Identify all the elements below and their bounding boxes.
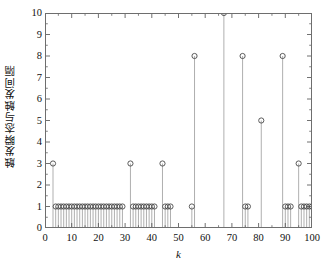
y-axis-tick-labels: 012345678910 [13,13,42,228]
x-tick-label: 20 [78,232,118,243]
x-tick-label: 80 [239,232,279,243]
x-tick-label: 40 [132,232,172,243]
stems-layer [45,13,312,228]
x-tick-label: 100 [292,232,325,243]
x-tick-label: 30 [105,232,145,243]
y-tick-label: 2 [16,180,42,190]
stem-plot-figure: 触发瞬态与触发间隔 012345678910 01020304050607080… [0,0,325,270]
x-tick-label: 60 [185,232,225,243]
y-tick-label: 4 [16,137,42,147]
x-axis-label: k [45,248,312,260]
y-tick-label: 5 [16,116,42,126]
plot-area [45,13,312,228]
axes-box [46,14,312,228]
x-tick-label: 90 [265,232,305,243]
y-axis-label: 触发瞬态与触发间隔 [0,0,18,232]
y-tick-label: 9 [16,30,42,40]
plot-canvas [45,13,312,228]
y-axis-label-text: 触发瞬态与触发间隔 [2,65,17,168]
y-tick-label: 1 [16,202,42,212]
markers-layer [50,13,312,209]
x-tick-label: 50 [159,232,199,243]
y-tick-label: 8 [16,51,42,61]
y-tick-label: 10 [16,8,42,18]
y-tick-label: 6 [16,94,42,104]
y-tick-label: 3 [16,159,42,169]
y-tick-label: 0 [16,223,42,233]
x-axis-tick-labels: 0102030405060708090100 [45,232,312,246]
x-tick-label: 70 [212,232,252,243]
axis-ticks-layer [45,13,312,228]
y-tick-label: 7 [16,73,42,83]
x-tick-label: 10 [52,232,92,243]
x-tick-label: 0 [25,232,65,243]
